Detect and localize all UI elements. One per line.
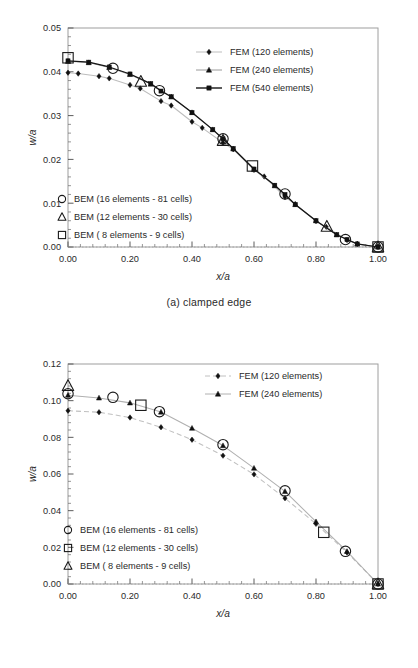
x-tick-label: 1.00	[369, 254, 387, 264]
series-marker	[252, 167, 256, 171]
y-tick-label: 0.00	[43, 579, 61, 589]
y-tick-label: 0.04	[43, 67, 61, 77]
legend-bem-label: BEM ( 8 elements - 9 cells)	[80, 561, 190, 571]
legend-fem-label: FEM (540 elements)	[230, 83, 313, 93]
series-marker	[252, 472, 256, 477]
series-line	[68, 411, 378, 584]
y-tick-label: 0.02	[43, 155, 61, 165]
series-marker	[159, 89, 163, 93]
series-marker	[376, 245, 380, 249]
series-marker	[97, 410, 101, 415]
series-marker	[66, 408, 70, 413]
y-tick-label: 0.10	[43, 396, 61, 406]
panel-a-caption: (a) clamped edge	[0, 296, 418, 308]
series-marker	[190, 110, 194, 114]
x-tick-label: 1.00	[369, 591, 387, 601]
y-tick-label: 0.06	[43, 469, 61, 479]
legend-fem: FEM (120 elements)FEM (240 elements)	[205, 371, 322, 399]
legend-fem-label: FEM (120 elements)	[230, 47, 313, 57]
series-marker	[293, 202, 297, 206]
series-marker	[220, 443, 225, 448]
series-1	[66, 408, 380, 587]
x-tick-label: 0.00	[59, 254, 77, 264]
legend-fem-label: FEM (240 elements)	[239, 389, 322, 399]
series-marker	[221, 453, 225, 458]
y-axis-title: w/a	[27, 466, 38, 482]
legend-bem-label: BEM (12 elements - 30 cells)	[80, 543, 198, 553]
legend-marker-triangle-open	[58, 213, 66, 220]
axes: 0.000.200.400.600.801.000.000.010.020.03…	[43, 23, 387, 264]
chart-simply-supported-edge: 0.000.200.400.600.801.000.000.020.040.06…	[0, 334, 418, 628]
series-marker	[251, 465, 256, 470]
x-tick-label: 0.20	[121, 254, 139, 264]
series-marker	[231, 146, 235, 150]
x-tick-label: 0.00	[59, 591, 77, 601]
legend-marker-diamond	[207, 49, 211, 55]
x-tick-label: 0.40	[183, 254, 201, 264]
series-marker	[66, 70, 70, 75]
series-marker	[159, 98, 163, 103]
legend-marker-square	[207, 86, 211, 90]
x-tick-label: 0.60	[245, 254, 263, 264]
series-marker	[273, 183, 277, 187]
series-marker	[149, 82, 153, 86]
bem-series-2	[135, 75, 384, 251]
series-marker	[355, 242, 359, 246]
legend-bem-label: BEM (16 elements - 81 cells)	[74, 194, 192, 204]
series-marker	[128, 415, 132, 420]
x-tick-label: 0.40	[183, 591, 201, 601]
series-marker	[189, 425, 194, 430]
series-marker	[87, 60, 91, 64]
series-1	[66, 70, 380, 250]
series-marker	[66, 59, 70, 63]
figure-panel-b: 0.000.200.400.600.801.000.000.020.040.06…	[0, 334, 418, 668]
legend-bem-label: BEM (16 elements - 81 cells)	[80, 525, 198, 535]
series-marker	[128, 72, 132, 76]
figure-panel-a: 0.000.200.400.600.801.000.000.010.020.03…	[0, 0, 418, 334]
series-marker	[190, 119, 194, 124]
y-tick-label: 0.05	[43, 23, 61, 33]
x-axis-title: x/a	[215, 608, 230, 619]
series-marker	[211, 128, 215, 132]
series-2	[65, 392, 380, 586]
x-tick-label: 0.80	[307, 591, 325, 601]
series-marker	[97, 73, 101, 78]
y-tick-label: 0.04	[43, 506, 61, 516]
series-marker	[128, 82, 132, 87]
series-marker	[107, 76, 111, 81]
series-marker	[345, 238, 349, 242]
legend-fem-label: FEM (240 elements)	[230, 65, 313, 75]
bem-marker	[108, 392, 118, 402]
y-tick-label: 0.08	[43, 433, 61, 443]
y-tick-label: 0.02	[43, 543, 61, 553]
legend-bem-label: BEM ( 8 elements - 9 cells)	[74, 230, 184, 240]
series-marker	[76, 71, 80, 76]
x-axis-title: x/a	[215, 271, 230, 282]
legend-bem: BEM (16 elements - 81 cells)BEM (12 elem…	[58, 194, 192, 240]
series-marker	[200, 125, 204, 130]
bem-series-1	[63, 389, 383, 590]
legend-fem-label: FEM (120 elements)	[239, 371, 322, 381]
legend-marker-square-open	[58, 231, 65, 238]
series-marker	[190, 437, 194, 442]
y-tick-label: 0.03	[43, 111, 61, 121]
legend-bem: BEM (16 elements - 81 cells)BEM (12 elem…	[64, 525, 198, 571]
series-marker	[169, 103, 173, 108]
series-marker	[169, 95, 173, 99]
series-marker	[335, 233, 339, 237]
x-tick-label: 0.60	[245, 591, 263, 601]
y-tick-label: 0.12	[43, 359, 61, 369]
legend-fem: FEM (120 elements)FEM (240 elements)FEM …	[196, 47, 313, 93]
chart-clamped-edge: 0.000.200.400.600.801.000.000.010.020.03…	[0, 0, 418, 296]
legend-marker-diamond	[216, 373, 220, 379]
legend-bem-label: BEM (12 elements - 30 cells)	[74, 212, 192, 222]
x-tick-label: 0.20	[121, 591, 139, 601]
series-marker	[283, 192, 287, 196]
x-tick-label: 0.80	[307, 254, 325, 264]
series-line	[68, 395, 378, 584]
series-marker	[314, 219, 318, 223]
bem-series-3	[62, 380, 383, 589]
series-marker	[159, 425, 163, 430]
y-axis-title: w/a	[27, 129, 38, 145]
y-tick-label: 0.00	[43, 242, 61, 252]
